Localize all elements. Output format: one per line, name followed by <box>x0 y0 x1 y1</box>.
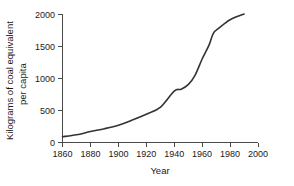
y-axis-title-line1: Kilograms of coal equivalent <box>4 21 15 140</box>
x-tick-label-1920: 1920 <box>136 149 156 159</box>
x-axis-title: Year <box>150 165 169 176</box>
x-tick-label-1980: 1980 <box>220 149 240 159</box>
x-tick-label-1900: 1900 <box>108 149 128 159</box>
data-series-line <box>63 14 245 137</box>
x-tick-label-1880: 1880 <box>80 149 100 159</box>
x-tick-label-2000: 2000 <box>248 149 268 159</box>
x-tick-label-1940: 1940 <box>164 149 184 159</box>
y-tick-label-0: 0 <box>50 138 55 148</box>
chart-container: 0 500 1000 1500 2000 1860 1880 1900 1920… <box>0 0 294 186</box>
x-tick-label-1860: 1860 <box>52 149 72 159</box>
y-tick-label-500: 500 <box>40 106 55 116</box>
line-chart: 0 500 1000 1500 2000 1860 1880 1900 1920… <box>0 0 294 186</box>
y-tick-label-2000: 2000 <box>35 10 55 20</box>
y-axis-title-line2: per capita <box>17 63 28 105</box>
x-axis-tick-labels: 1860 1880 1900 1920 1940 1960 1980 2000 <box>52 149 268 159</box>
x-axis-ticks <box>63 143 259 148</box>
axis-lines <box>63 14 259 143</box>
y-axis-tick-labels: 0 500 1000 1500 2000 <box>35 10 55 148</box>
y-tick-label-1500: 1500 <box>35 42 55 52</box>
y-tick-label-1000: 1000 <box>35 74 55 84</box>
x-tick-label-1960: 1960 <box>192 149 212 159</box>
y-axis-ticks <box>58 15 63 143</box>
